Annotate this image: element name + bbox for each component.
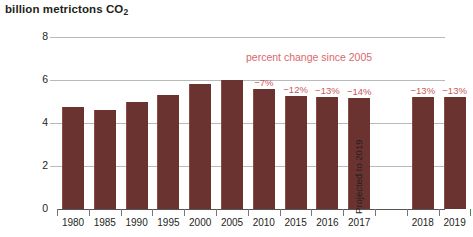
x-axis-tick-mark xyxy=(57,209,58,216)
y-axis-tick-label: 8 xyxy=(18,30,48,42)
x-axis-tick-mark xyxy=(407,209,408,216)
percent-change-label-2017: −14% xyxy=(341,86,377,97)
percent-change-label-2016: −13% xyxy=(309,85,345,96)
y-axis-tick-label: 0 xyxy=(18,202,48,214)
chart-title: billion metrictons CO2 xyxy=(5,3,128,15)
chart-title-subscript: 2 xyxy=(123,7,128,17)
x-axis-label-2017: 2017 xyxy=(341,217,377,228)
bar-1990 xyxy=(126,102,148,210)
x-axis-label-1990: 1990 xyxy=(119,217,155,228)
x-axis-label-2005: 2005 xyxy=(214,217,250,228)
x-axis-tick-mark xyxy=(121,209,122,216)
bar-2019 xyxy=(444,97,466,209)
bar-2015 xyxy=(285,96,307,209)
x-axis-label-2010: 2010 xyxy=(246,217,282,228)
percent-change-label-2010: −7% xyxy=(246,77,282,88)
x-axis-tick-mark xyxy=(216,209,217,216)
percent-change-label-2019: −13% xyxy=(437,85,473,96)
y-axis-tick-mark xyxy=(50,166,57,167)
x-axis-label-2015: 2015 xyxy=(278,217,314,228)
x-axis-label-1985: 1985 xyxy=(87,217,123,228)
bar-2000 xyxy=(189,84,211,209)
x-axis-tick-mark xyxy=(311,209,312,216)
x-axis-label-1995: 1995 xyxy=(150,217,186,228)
y-axis-tick-mark xyxy=(50,80,57,81)
y-axis-tick-label: 4 xyxy=(18,116,48,128)
chart-title-text: billion metrictons CO xyxy=(5,3,123,15)
bar-2018 xyxy=(412,97,434,209)
y-axis-tick-mark xyxy=(50,37,57,38)
x-axis-tick-mark xyxy=(375,209,376,216)
x-axis-tick-mark xyxy=(280,209,281,216)
percent-change-note: percent change since 2005 xyxy=(246,51,372,63)
x-axis-label-2000: 2000 xyxy=(182,217,218,228)
x-axis-tick-mark xyxy=(89,209,90,216)
x-axis-projected-tick xyxy=(470,209,471,216)
bar-2016 xyxy=(316,97,338,209)
x-axis-label-2016: 2016 xyxy=(309,217,345,228)
x-axis-tick-mark xyxy=(439,209,440,216)
bar-2005 xyxy=(221,80,243,209)
projected-to-2019-label: Projected to 2019 xyxy=(353,140,364,214)
x-axis-label-2018: 2018 xyxy=(405,217,441,228)
gridline-8 xyxy=(57,37,445,38)
percent-change-label-2015: −12% xyxy=(278,84,314,95)
bar-1980 xyxy=(62,107,84,209)
bar-1995 xyxy=(157,95,179,209)
bar-1985 xyxy=(94,110,116,209)
x-axis-tick-mark xyxy=(248,209,249,216)
x-axis-line xyxy=(57,209,445,210)
x-axis-label-1980: 1980 xyxy=(55,217,91,228)
percent-change-label-2018: −13% xyxy=(405,85,441,96)
x-axis-tick-mark xyxy=(184,209,185,216)
y-axis-tick-mark xyxy=(50,123,57,124)
x-axis-tick-mark xyxy=(343,209,344,216)
y-axis-tick-label: 2 xyxy=(18,159,48,171)
x-axis-tick-mark xyxy=(152,209,153,216)
bar-2010 xyxy=(253,89,275,209)
x-axis-label-2019: 2019 xyxy=(437,217,473,228)
y-axis-tick-label: 6 xyxy=(18,73,48,85)
